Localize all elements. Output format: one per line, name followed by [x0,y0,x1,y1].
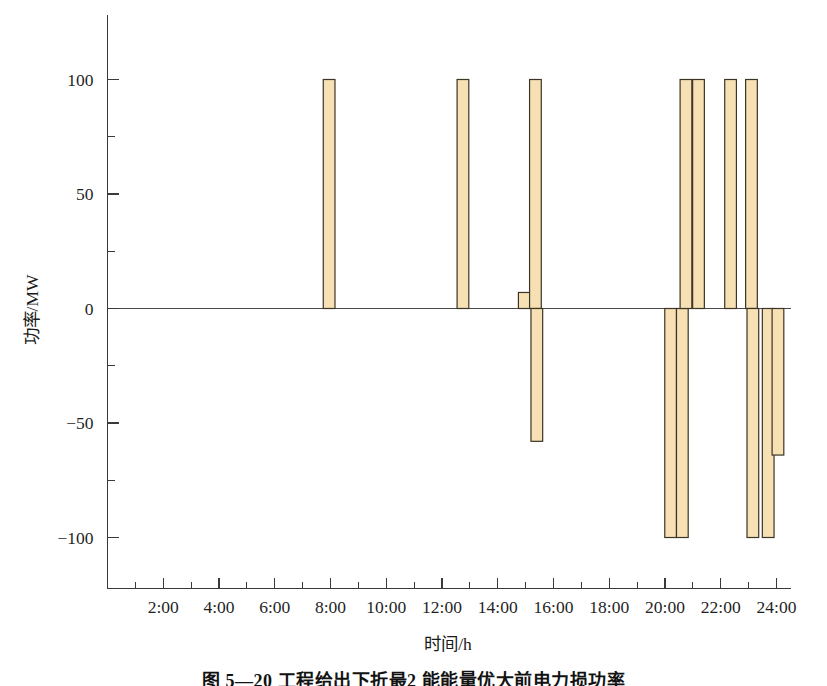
x-tick-label-8: 18:00 [589,597,629,617]
bar-3 [530,80,542,309]
x-tick-label-9: 20:00 [645,597,685,617]
x-tick-label-0: 2:00 [148,597,179,617]
bar-6 [676,309,688,538]
y-tick-label-3: 50 [76,184,94,204]
figure-container: −100−50050100 2:004:006:008:0010:0012:00… [0,0,827,686]
bar-13 [772,309,784,456]
bar-5 [665,309,677,538]
x-tick-label-2: 6:00 [259,597,290,617]
y-tick-label-2: 0 [85,299,94,319]
bar-1 [457,80,469,309]
x-tick-label-7: 16:00 [534,597,574,617]
bar-8 [693,80,705,309]
x-tick-label-1: 4:00 [203,597,234,617]
bar-7 [680,80,692,309]
x-tick-label-11: 24:00 [757,597,797,617]
x-tick-label-4: 10:00 [366,597,406,617]
x-tick-label-5: 12:00 [422,597,462,617]
bar-0 [323,80,335,309]
y-tick-label-0: −100 [57,528,93,548]
bar-4 [531,309,543,442]
bar-2 [518,292,530,308]
x-axis-title: 时间/h [424,634,472,654]
bar-10 [746,80,758,309]
figure-caption: 图 5—20 工程给出下折最2 能能量优大前电力损功率 [0,666,827,686]
bar-9 [725,80,737,309]
x-tick-label-6: 14:00 [478,597,518,617]
x-tick-label-3: 8:00 [315,597,346,617]
bar-11 [747,309,759,538]
y-axis-title: 功率/MW [22,274,42,345]
figure-caption-band: 图 5—20 工程给出下折最2 能能量优大前电力损功率 [0,666,827,686]
power-bar-chart: −100−50050100 2:004:006:008:0010:0012:00… [0,0,827,686]
x-tick-label-10: 22:00 [701,597,741,617]
y-tick-label-4: 100 [67,70,94,90]
y-tick-label-1: −50 [66,413,94,433]
